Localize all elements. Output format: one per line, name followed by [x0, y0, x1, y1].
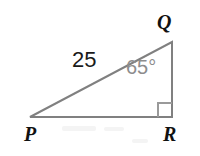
side-length-label-pq: 25	[72, 49, 96, 71]
triangle-outline	[30, 42, 172, 117]
vertex-label-q: Q	[157, 12, 171, 32]
vertex-label-p: P	[24, 124, 36, 144]
triangle-diagram: Q P R 25 65°	[0, 0, 200, 156]
scan-artifact	[132, 139, 148, 143]
angle-measure-label-q: 65°	[126, 57, 156, 77]
scan-artifact	[62, 126, 96, 131]
right-angle-marker-icon	[158, 103, 172, 117]
vertex-label-r: R	[163, 124, 176, 144]
scan-artifact	[104, 127, 124, 131]
